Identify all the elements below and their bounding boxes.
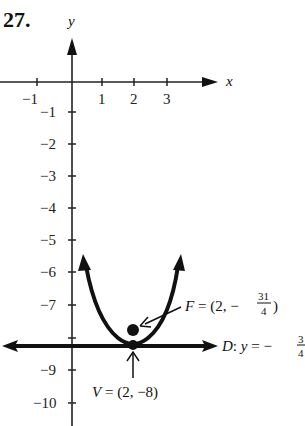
- x-axis: x: [0, 73, 233, 89]
- vertex-point: [128, 340, 138, 350]
- x-tick-label: −1: [22, 91, 38, 107]
- focus-point: [127, 324, 139, 336]
- y-tick-label: −5: [40, 232, 56, 248]
- y-axis-label: y: [66, 13, 75, 29]
- y-tick-label: −6: [40, 264, 56, 280]
- y-tick-label: −10: [33, 395, 56, 411]
- y-tick-label: −7: [40, 297, 56, 313]
- focus-suffix: ): [273, 298, 278, 315]
- parabola-right-arrow-icon: [173, 254, 185, 271]
- y-tick-label: −3: [40, 168, 56, 184]
- directrix-fraction-den: 4: [298, 347, 304, 359]
- svg-text:F = (2, −: F = (2, −: [184, 298, 239, 315]
- directrix-fraction-num: 3: [298, 333, 304, 345]
- parabola-left-arrow-icon: [78, 254, 91, 271]
- y-tick-label: −4: [40, 200, 56, 216]
- svg-text:D: y = −: D: y = −: [221, 338, 272, 354]
- y-axis: y: [66, 13, 77, 426]
- y-tick-label: −2: [40, 136, 56, 152]
- x-axis-arrow-icon: [202, 77, 218, 87]
- y-axis-arrow-icon: [67, 38, 77, 55]
- focus-fraction-num: 31: [258, 290, 269, 302]
- y-ticks: −1 −2 −3 −4 −5 −6 −7 −9 −10: [33, 104, 76, 411]
- x-tick-label: 2: [130, 91, 138, 107]
- vertex-leader-arrow: [127, 352, 139, 378]
- directrix-line: [2, 340, 218, 352]
- vertex-label: V = (2, −8): [92, 384, 158, 401]
- problem-number: 27.: [3, 7, 31, 32]
- parabola-diagram: 27. y x −1 1 2 3 −1 −2 −3 −4: [0, 0, 305, 426]
- focus-label: F = (2, − 31 4 ): [184, 290, 278, 317]
- y-tick-label: −1: [40, 104, 56, 120]
- x-tick-label: 3: [163, 91, 171, 107]
- x-axis-label: x: [225, 73, 233, 89]
- focus-fraction-den: 4: [261, 305, 267, 317]
- directrix-label: D: y = − 3 4: [221, 333, 305, 359]
- x-tick-label: 1: [98, 91, 106, 107]
- y-tick-label: −9: [40, 362, 56, 378]
